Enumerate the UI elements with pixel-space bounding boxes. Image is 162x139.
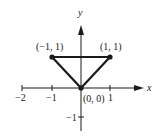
coordinate-plane: y x −2 −1 1 −1 (−1, 1) (1, 1) (0, 0) xyxy=(0,0,162,139)
point-marker xyxy=(49,54,54,59)
x-tick-label: −2 xyxy=(15,92,26,103)
x-tick-label: −1 xyxy=(46,92,57,103)
point-label: (−1, 1) xyxy=(36,41,63,53)
y-tick-label: −1 xyxy=(66,112,77,123)
y-axis-arrow-icon xyxy=(78,25,84,35)
point-marker xyxy=(78,85,83,90)
x-axis-arrow-icon xyxy=(134,85,144,91)
point-label: (1, 1) xyxy=(100,41,122,53)
point-marker xyxy=(107,54,112,59)
point-label: (0, 0) xyxy=(83,93,105,105)
y-axis-label: y xyxy=(77,7,83,18)
x-axis-label: x xyxy=(146,82,152,93)
x-tick-label: 1 xyxy=(108,92,113,103)
